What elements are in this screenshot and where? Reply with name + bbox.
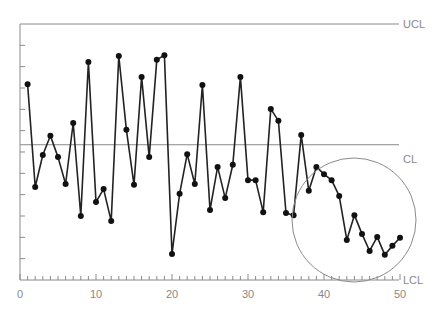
data-point [55, 154, 61, 160]
data-point [169, 251, 175, 257]
data-point [306, 188, 312, 194]
data-point [321, 171, 327, 177]
annotation-circle [292, 158, 416, 282]
series-line [28, 55, 400, 255]
data-point [40, 152, 46, 158]
lcl-label: LCL [403, 274, 423, 286]
data-point [260, 209, 266, 215]
data-point [116, 53, 122, 59]
data-point [359, 231, 365, 237]
data-point [78, 213, 84, 219]
data-point [85, 59, 91, 65]
data-point [32, 184, 38, 190]
x-tick-label-10: 10 [90, 288, 102, 300]
data-point [268, 106, 274, 112]
data-point [329, 177, 335, 183]
data-point [367, 248, 373, 254]
data-point [389, 243, 395, 249]
data-series [25, 52, 403, 258]
x-tick-label-50: 50 [394, 288, 406, 300]
highlight-circle [292, 158, 416, 282]
x-axis-ticks [20, 274, 400, 280]
cl-label: CL [403, 153, 417, 165]
data-point [146, 154, 152, 160]
data-point [154, 57, 160, 63]
data-point [70, 120, 76, 126]
data-point [344, 237, 350, 243]
data-point [207, 207, 213, 213]
data-point [253, 177, 259, 183]
data-point [351, 212, 357, 218]
data-point [275, 118, 281, 124]
data-point [63, 181, 69, 187]
data-point [123, 127, 129, 133]
data-point [47, 133, 53, 139]
data-point [199, 82, 205, 88]
data-point [291, 212, 297, 218]
data-point [177, 191, 183, 197]
data-point [298, 132, 304, 138]
x-tick-label-30: 30 [242, 288, 254, 300]
data-point [192, 181, 198, 187]
data-point [25, 81, 31, 87]
data-point [161, 52, 167, 58]
y-axis-ticks [20, 45, 25, 258]
data-point [382, 252, 388, 258]
x-tick-label-0: 0 [17, 288, 23, 300]
data-point [93, 199, 99, 205]
data-point [397, 235, 403, 241]
ucl-label: UCL [403, 18, 425, 30]
data-point [222, 195, 228, 201]
data-point [245, 177, 251, 183]
data-point [336, 193, 342, 199]
x-tick-label-20: 20 [166, 288, 178, 300]
data-point [184, 151, 190, 157]
control-limit-lines [20, 24, 399, 280]
data-point [230, 162, 236, 168]
control-chart: UCL CL LCL 0 10 20 30 40 50 [0, 0, 439, 315]
data-point [108, 218, 114, 224]
data-point [237, 74, 243, 80]
data-point [101, 186, 107, 192]
data-point [215, 164, 221, 170]
data-point [131, 182, 137, 188]
data-point [283, 210, 289, 216]
data-point [139, 74, 145, 80]
data-point [374, 234, 380, 240]
x-tick-label-40: 40 [318, 288, 330, 300]
